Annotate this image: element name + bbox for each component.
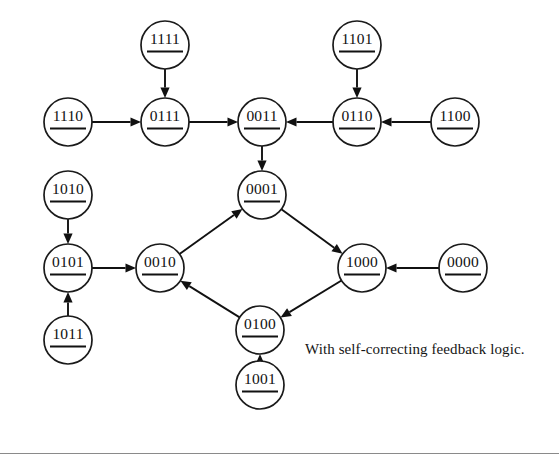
state-transition-diagram: 1111110111100111001101101100101000010101… [0, 0, 559, 460]
state-diagram-figure: 1111110111100111001101101100101000010101… [0, 0, 559, 460]
state-node-0010[interactable]: 0010 [136, 244, 184, 292]
arrowhead-icon [257, 161, 266, 172]
state-node-0011[interactable]: 0011 [238, 98, 286, 146]
state-node-label: 0111 [150, 107, 181, 124]
state-node-label: 1001 [244, 370, 276, 387]
state-node-label: 1111 [150, 30, 180, 47]
edge-0100-to-0010 [180, 281, 239, 318]
state-node-label: 0010 [144, 253, 176, 270]
state-node-1001[interactable]: 1001 [236, 361, 284, 409]
arrowhead-icon [281, 308, 292, 317]
arrowhead-icon [180, 281, 191, 290]
arrowhead-icon [131, 117, 142, 126]
state-node-1101[interactable]: 1101 [333, 21, 381, 69]
arrowhead-icon [160, 88, 169, 99]
edge-1100-to-0110 [381, 117, 431, 126]
state-node-label: 0011 [246, 107, 277, 124]
state-node-0101[interactable]: 0101 [44, 244, 92, 292]
state-node-1110[interactable]: 1110 [44, 98, 92, 146]
state-node-1100[interactable]: 1100 [431, 98, 479, 146]
edge-0101-to-0010 [92, 263, 136, 272]
state-node-label: 0101 [52, 253, 84, 270]
state-node-label: 0001 [246, 180, 278, 197]
figure-caption: With self-correcting feedback logic. [305, 341, 525, 358]
state-node-label: 1101 [341, 30, 372, 47]
arrowhead-icon [381, 117, 392, 126]
arrowhead-icon [63, 292, 72, 303]
arrowhead-icon [352, 88, 361, 99]
edge-1010-to-0101 [63, 219, 72, 244]
state-node-1010[interactable]: 1010 [44, 171, 92, 219]
state-node-label: 1000 [346, 253, 378, 270]
state-node-label: 1010 [52, 180, 84, 197]
edge-0001-to-1000 [281, 209, 342, 254]
state-node-label: 0000 [447, 253, 479, 270]
edge-0011-to-0001 [257, 146, 266, 171]
state-node-0111[interactable]: 0111 [141, 98, 189, 146]
state-node-0001[interactable]: 0001 [238, 171, 286, 219]
footer-divider [0, 453, 559, 454]
arrowhead-icon [331, 244, 342, 254]
state-node-label: 1011 [52, 325, 83, 342]
state-node-label: 1110 [53, 107, 84, 124]
edge-0111-to-0011 [189, 117, 238, 126]
state-node-1111[interactable]: 1111 [141, 21, 189, 69]
state-node-0110[interactable]: 0110 [333, 98, 381, 146]
edge-1111-to-0111 [160, 69, 169, 98]
edge-1000-to-0100 [281, 280, 342, 317]
arrowhead-icon [231, 209, 242, 219]
state-node-label: 0110 [341, 107, 372, 124]
state-node-1011[interactable]: 1011 [44, 316, 92, 364]
state-node-0100[interactable]: 0100 [236, 306, 284, 354]
state-node-label: 0100 [244, 315, 276, 332]
edge-0110-to-0011 [286, 117, 333, 126]
state-node-0000[interactable]: 0000 [439, 244, 487, 292]
arrowhead-icon [228, 117, 239, 126]
edge-0000-to-1000 [386, 263, 439, 272]
state-node-1000[interactable]: 1000 [338, 244, 386, 292]
arrowhead-icon [126, 263, 137, 272]
arrowhead-icon [386, 263, 397, 272]
arrowhead-icon [63, 234, 72, 245]
arrowhead-icon [286, 117, 297, 126]
state-node-label: 1100 [439, 107, 470, 124]
edge-0010-to-0001 [180, 209, 243, 254]
edge-1101-to-0110 [352, 69, 361, 98]
edge-1011-to-0101 [63, 292, 72, 316]
edge-1110-to-0111 [92, 117, 141, 126]
